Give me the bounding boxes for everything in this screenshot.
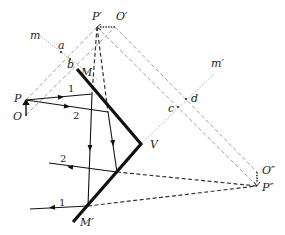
mirrors: [73, 69, 141, 222]
label-P-prime: P′: [92, 11, 102, 22]
construction-points: [60, 51, 187, 108]
image-O-prime-P-prime: [97, 24, 115, 30]
label-ray-1-in: 1: [68, 84, 74, 94]
virtual-rays: [88, 27, 257, 206]
label-ray-1-out: 1: [59, 198, 65, 208]
label-O: O: [13, 111, 22, 122]
label-O-prime: O′: [116, 11, 128, 22]
image-O-double-prime-P-double-prime: [254, 172, 260, 186]
label-ray-2-out: 2: [60, 154, 66, 164]
label-M-prime: M′: [80, 217, 94, 228]
label-c: c: [168, 103, 174, 114]
label-P-double-prime: P″: [262, 182, 274, 193]
label-P: P: [14, 93, 21, 104]
label-M: M: [81, 67, 92, 78]
real-rays: [26, 94, 117, 209]
label-a: a: [58, 40, 65, 51]
label-b: b: [67, 59, 74, 70]
label-V: V: [150, 139, 158, 150]
label-O-double-prime: O″: [262, 165, 275, 176]
normal-line-m-prime: [141, 74, 214, 144]
label-d: d: [191, 93, 198, 104]
object-O-P: [23, 100, 29, 116]
label-ray-2-in: 2: [73, 111, 79, 121]
label-m: m: [30, 30, 40, 41]
corner-mirror-ray-diagram: [0, 0, 285, 235]
label-m-prime: m′: [211, 58, 224, 69]
